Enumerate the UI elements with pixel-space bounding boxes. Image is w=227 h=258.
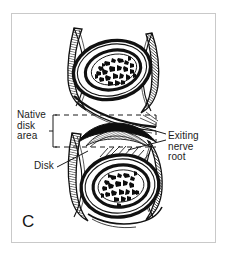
lower-vertebral-body: [68, 123, 162, 228]
label-exiting-nerve-root: Exiting nerve root: [168, 131, 199, 163]
figure-panel-c: Native disk area Disk Exiting nerve root…: [0, 0, 227, 258]
panel-label: C: [22, 213, 34, 231]
native-disk-area-bracket: [49, 115, 57, 147]
upper-vertebral-body: [67, 28, 158, 133]
label-disk: Disk: [34, 161, 54, 172]
label-native-disk-area: Native disk area: [17, 110, 46, 142]
